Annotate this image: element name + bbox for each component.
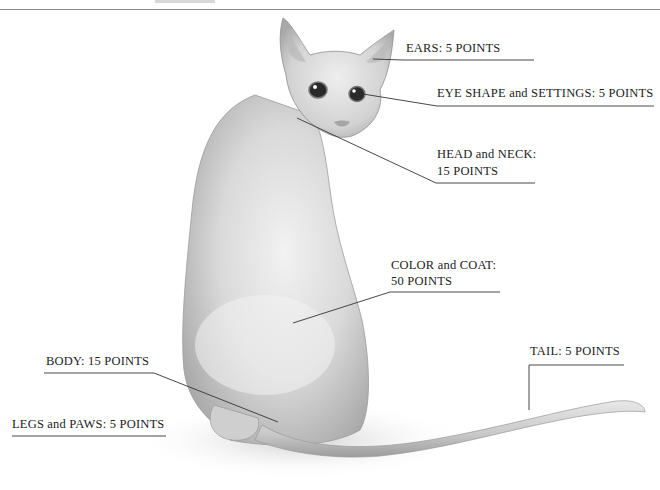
label-ears: EARS: 5 POINTS (406, 40, 500, 57)
label-body: BODY: 15 POINTS (46, 353, 149, 370)
label-color-coat-line1: COLOR and COAT: (391, 257, 496, 274)
label-head-neck-line1: HEAD and NECK: (437, 146, 536, 163)
label-eye-shape: EYE SHAPE and SETTINGS: 5 POINTS (437, 85, 653, 102)
ears-leader (373, 59, 534, 60)
right-eye (349, 87, 365, 102)
haunch-highlight (195, 295, 335, 395)
label-legs-paws: LEGS and PAWS: 5 POINTS (12, 416, 164, 433)
left-eye (309, 82, 327, 98)
label-color-coat-line2: 50 POINTS (391, 273, 452, 290)
label-tail: TAIL: 5 POINTS (530, 343, 620, 360)
label-head-neck-line2: 15 POINTS (437, 163, 498, 180)
